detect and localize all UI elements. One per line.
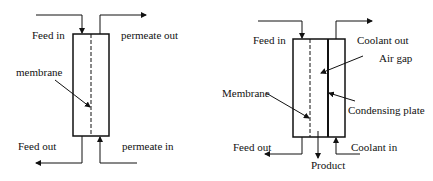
label-coolant-in: Coolant in <box>351 141 398 153</box>
label-feed-in: Feed in <box>32 29 65 41</box>
right-diagram: Feed in Coolant out Air gap Membrane Con… <box>222 21 425 171</box>
label-permeate-in: permeate in <box>122 140 174 152</box>
label-feed-out: Feed out <box>233 141 271 153</box>
label-feed-in: Feed in <box>253 34 286 46</box>
membrane-distillation-diagrams: Feed in permeate out membrane Feed out p… <box>0 0 433 181</box>
membrane-pointer <box>266 93 309 118</box>
label-feed-out: Feed out <box>18 140 56 152</box>
label-product: Product <box>311 159 345 171</box>
label-membrane: Membrane <box>222 87 270 99</box>
left-diagram: Feed in permeate out membrane Feed out p… <box>16 15 178 163</box>
label-coolant-out: Coolant out <box>357 34 409 46</box>
label-membrane: membrane <box>16 66 63 78</box>
condensing-plate-pointer <box>329 93 355 101</box>
label-air-gap: Air gap <box>379 52 413 64</box>
label-condensing-plate: Condensing plate <box>348 104 425 116</box>
label-permeate-out: permeate out <box>121 29 178 41</box>
module-body <box>293 39 345 137</box>
